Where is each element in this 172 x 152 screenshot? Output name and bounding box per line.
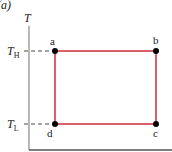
point-a [52,48,58,54]
point-c-label: c [153,127,158,139]
cycle-rectangle [55,51,156,124]
panel-label: (a) [0,0,11,12]
point-b-label: b [153,34,159,46]
point-d [52,121,58,127]
tl-label: TL [7,117,19,133]
y-axis-label: T [24,11,32,25]
point-b [153,48,159,54]
point-a-label: a [50,35,55,47]
point-d-label: d [47,127,53,139]
tl-diagram: (a) T TH TL a b c d [0,0,172,152]
th-label: TH [7,44,20,60]
